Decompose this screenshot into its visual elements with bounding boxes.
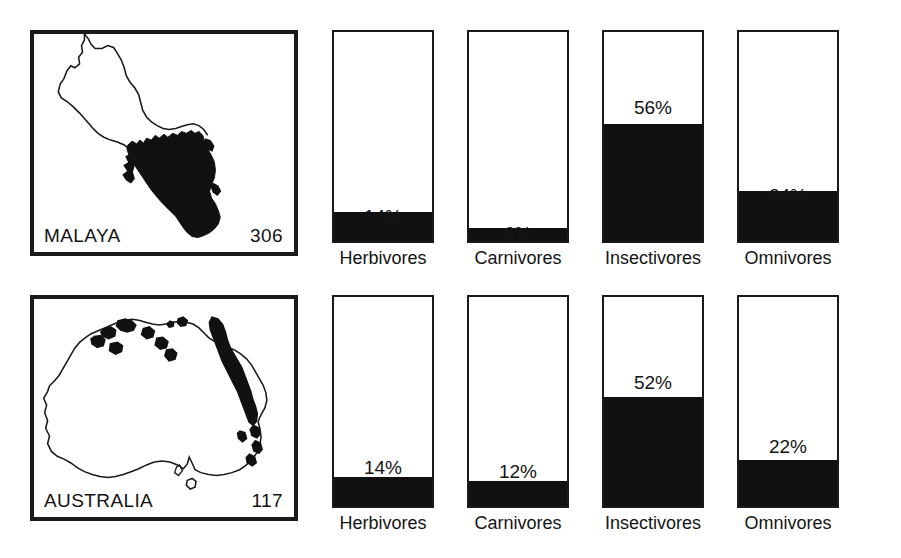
bar-label: Omnivores <box>723 248 853 269</box>
bar-label: Herbivores <box>318 513 448 534</box>
bar-label: Carnivores <box>453 513 583 534</box>
bar-box <box>737 295 839 508</box>
bar-fill <box>334 212 432 241</box>
malaya-map <box>34 34 294 252</box>
map-count-australia: 117 <box>252 490 284 512</box>
bar-fill <box>604 124 702 241</box>
panel-row-malaya: MALAYA 306 14% Herbivores 6% Carnivores <box>0 18 901 283</box>
bar-box <box>602 30 704 243</box>
bar-label: Insectivores <box>588 513 718 534</box>
bar-cell-omnivores-malaya: 24% Omnivores <box>737 30 839 282</box>
bar-box <box>332 30 434 243</box>
bar-fill <box>469 228 567 241</box>
bar-label: Insectivores <box>588 248 718 269</box>
bar-cell-carnivores-malaya: 6% Carnivores <box>467 30 569 282</box>
bar-fill <box>469 481 567 506</box>
bar-fill <box>604 397 702 506</box>
bar-cell-herbivores-malaya: 14% Herbivores <box>332 30 434 282</box>
bar-fill <box>334 477 432 506</box>
figure-root: MALAYA 306 14% Herbivores 6% Carnivores <box>0 0 901 558</box>
bar-box <box>602 295 704 508</box>
australia-map <box>34 299 294 517</box>
bar-box <box>467 295 569 508</box>
bar-cell-herbivores-australia: 14% Herbivores <box>332 295 434 547</box>
bar-box <box>737 30 839 243</box>
malaya-map-panel: MALAYA 306 <box>30 30 298 256</box>
panel-row-australia: AUSTRALIA 117 14% Herbivores 12% Carnivo… <box>0 283 901 548</box>
bar-group-australia: 14% Herbivores 12% Carnivores 52% Insect… <box>332 295 877 547</box>
bar-cell-insectivores-malaya: 56% Insectivores <box>602 30 704 282</box>
map-caption-australia: AUSTRALIA <box>44 490 153 512</box>
australia-map-panel: AUSTRALIA 117 <box>30 295 298 521</box>
bar-cell-insectivores-australia: 52% Insectivores <box>602 295 704 547</box>
bar-box <box>467 30 569 243</box>
bar-label: Carnivores <box>453 248 583 269</box>
map-caption-malaya: MALAYA <box>44 225 121 247</box>
map-count-malaya: 306 <box>250 225 283 247</box>
bar-box <box>332 295 434 508</box>
bar-group-malaya: 14% Herbivores 6% Carnivores 56% Insecti… <box>332 30 877 282</box>
bar-label: Herbivores <box>318 248 448 269</box>
bar-fill <box>739 191 837 241</box>
bar-label: Omnivores <box>723 513 853 534</box>
bar-cell-carnivores-australia: 12% Carnivores <box>467 295 569 547</box>
bar-fill <box>739 460 837 506</box>
bar-cell-omnivores-australia: 22% Omnivores <box>737 295 839 547</box>
